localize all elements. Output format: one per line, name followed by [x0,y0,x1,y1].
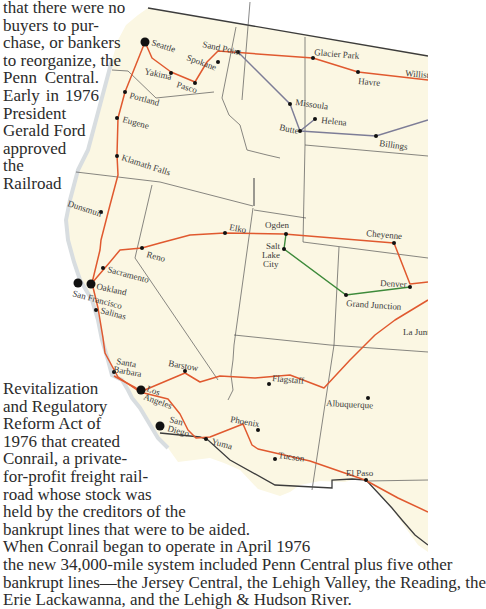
text-line: Conrail, a private- [3,450,109,468]
text-line: bankrupt lines—the Jersey Central, the L… [3,574,486,592]
city-label-ogden: Ogden [265,220,289,230]
text-line: Penn Central. [3,69,99,87]
article-text-bottom: Revitalization and Regulatory Reform Act… [3,380,486,609]
article-text-top: that there were no buyers to pur- chase,… [3,0,99,193]
text-line: and Regulatory [3,398,87,416]
text-line: the new 34,000-mile system included Penn… [3,556,486,574]
text-line: Early in 1976 [3,87,99,105]
city-label-havre: Havre [358,76,381,88]
text-line: Railroad [3,175,99,193]
text-line: to reorganize, the [3,52,99,70]
text-line: for-profit freight rail- [3,468,125,486]
city-label-salt-lake-3: City [263,259,279,269]
text-line: Revitalization [3,380,87,398]
text-line: Erie Lackawanna, and the Lehigh & Hudson… [3,591,486,609]
text-line: road whose stock was [3,486,141,504]
text-line: held by the creditors of the [3,503,486,521]
text-line: approved [3,140,99,158]
city-label-denver: Denver [380,278,407,289]
text-line: the [3,157,99,175]
text-line: 1976 that created [3,433,95,451]
text-line: buyers to pur- [3,17,99,35]
text-line: chase, or bankers [3,34,99,52]
text-line: President [3,105,99,123]
text-line: Gerald Ford [3,122,99,140]
text-line: that there were no [3,0,99,17]
text-line: Reform Act of [3,415,91,433]
text-line: When Conrail began to operate in April 1… [3,538,486,556]
city-label-la-junta: La Junt [403,327,428,337]
text-line: bankrupt lines that were to be aided. [3,521,486,539]
